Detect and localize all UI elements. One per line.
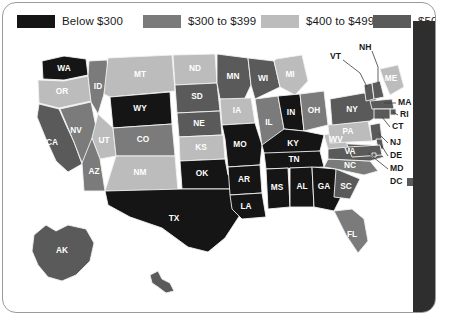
state-label-ca: CA xyxy=(46,137,58,147)
leader-line-nh xyxy=(372,51,378,83)
legend-item-400-499: $400 to $499 xyxy=(261,12,374,30)
state-callout-nj: NJ xyxy=(390,137,401,147)
state-label-fl: FL xyxy=(347,229,357,239)
legend-swatch-500-above xyxy=(373,15,411,28)
state-label-nc: NC xyxy=(344,160,356,170)
state-label-wi: WI xyxy=(258,73,268,83)
state-label-tn: TN xyxy=(288,154,299,164)
legend-item-300-399: $300 to $399 xyxy=(143,12,256,30)
state-callout-ri: RI xyxy=(400,109,409,119)
state-label-ky: KY xyxy=(287,138,299,148)
legend-label-300-399: $300 to $399 xyxy=(188,15,256,27)
state-hi[interactable] xyxy=(150,271,174,293)
state-label-az: AZ xyxy=(88,166,99,176)
state-label-ut: UT xyxy=(98,135,109,145)
legend-swatch-300-399 xyxy=(143,15,181,28)
state-callout-md: MD xyxy=(390,163,403,173)
legend-swatch-below-300 xyxy=(17,15,55,28)
state-label-ny: NY xyxy=(346,104,358,114)
state-callout-de: DE xyxy=(390,150,402,160)
map-card: Below $300 $300 to $399 $400 to $499 $50… xyxy=(2,2,436,313)
state-label-me: ME xyxy=(385,73,398,83)
legend-label-below-300: Below $300 xyxy=(62,15,123,27)
state-nh[interactable] xyxy=(372,81,384,99)
state-label-nm: NM xyxy=(134,167,147,177)
state-label-or: OR xyxy=(56,86,68,96)
state-nj[interactable] xyxy=(370,123,382,141)
state-label-nd: ND xyxy=(189,63,201,73)
state-label-pa: PA xyxy=(343,126,354,136)
state-label-wv: WV xyxy=(329,134,343,144)
state-label-sc: SC xyxy=(340,181,352,191)
state-label-ar: AR xyxy=(238,174,250,184)
state-callout-ct: CT xyxy=(392,121,404,131)
legend-swatch-400-499 xyxy=(261,15,299,28)
state-label-va: VA xyxy=(345,146,356,156)
state-label-oh: OH xyxy=(308,105,320,115)
state-label-in: IN xyxy=(287,107,295,117)
state-label-ak: AK xyxy=(56,245,68,255)
state-label-ga: GA xyxy=(318,181,330,191)
state-label-ok: OK xyxy=(196,168,208,178)
state-label-mt: MT xyxy=(134,69,146,79)
state-callout-nh: NH xyxy=(359,42,371,52)
state-label-nv: NV xyxy=(70,125,82,135)
state-label-ms: MS xyxy=(271,182,284,192)
us-choropleth-map: WAORCANVIDMTWYUTCOAZNMNDSDNEKSOKTXMNIAMO… xyxy=(12,39,428,307)
state-label-ne: NE xyxy=(193,118,205,128)
state-ma[interactable] xyxy=(370,99,394,109)
state-label-la: LA xyxy=(240,201,251,211)
state-label-al: AL xyxy=(296,181,307,191)
state-label-sd: SD xyxy=(191,91,203,101)
state-label-tx: TX xyxy=(169,213,180,223)
state-label-hi: HI xyxy=(136,281,144,291)
state-label-mo: MO xyxy=(233,139,247,149)
state-callout-vt: VT xyxy=(330,51,342,61)
legend-label-400-499: $400 to $499 xyxy=(306,15,374,27)
map-svg: WAORCANVIDMTWYUTCOAZNMNDSDNEKSOKTXMNIAMO… xyxy=(12,39,428,307)
state-label-wa: WA xyxy=(57,63,70,73)
state-label-mn: MN xyxy=(227,71,240,81)
map-legend: Below $300 $300 to $399 $400 to $499 $50… xyxy=(3,12,436,34)
state-label-id: ID xyxy=(94,81,102,91)
state-label-co: CO xyxy=(137,134,150,144)
page-edge-bar xyxy=(413,21,435,313)
leader-line-vt xyxy=(343,60,367,87)
state-label-ia: IA xyxy=(233,105,241,115)
state-callout-ma: MA xyxy=(398,97,411,107)
state-label-il: IL xyxy=(265,117,272,127)
state-label-wy: WY xyxy=(133,103,147,113)
legend-item-below-300: Below $300 xyxy=(17,12,123,30)
state-label-ks: KS xyxy=(195,142,207,152)
state-callout-dc: DC xyxy=(390,176,402,186)
state-label-mi: MI xyxy=(285,69,294,79)
